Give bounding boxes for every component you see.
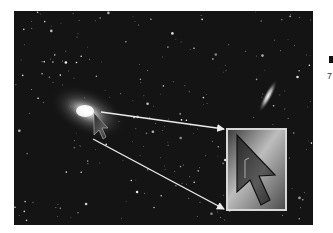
star (175, 39, 176, 40)
star (60, 207, 62, 209)
star (87, 47, 88, 48)
star (140, 79, 142, 81)
star (52, 61, 54, 63)
star (261, 54, 264, 57)
star (288, 39, 289, 40)
star (179, 113, 181, 115)
star (220, 217, 221, 218)
star (284, 90, 285, 91)
star (162, 130, 163, 131)
star (42, 61, 43, 62)
star (155, 123, 156, 124)
star (133, 16, 134, 17)
star (19, 215, 20, 216)
star (24, 201, 26, 203)
star (201, 15, 202, 16)
star (181, 119, 182, 120)
star (31, 28, 32, 29)
star (288, 118, 289, 119)
star (260, 20, 262, 22)
star (121, 218, 122, 219)
cropped-text-fragment: 7 (327, 72, 332, 81)
star (101, 62, 102, 63)
star (217, 156, 218, 157)
star (298, 70, 300, 72)
star (164, 126, 165, 127)
star (264, 70, 265, 71)
star (122, 160, 123, 161)
star (66, 171, 68, 173)
star (74, 78, 75, 79)
star (186, 120, 188, 122)
star (279, 94, 280, 95)
star (203, 104, 204, 105)
star (188, 198, 189, 199)
star (255, 12, 256, 13)
star (24, 211, 26, 213)
star (132, 141, 133, 142)
star (50, 59, 51, 60)
star (226, 70, 227, 71)
star (225, 65, 226, 66)
star (160, 157, 161, 158)
star (181, 42, 182, 43)
star (193, 133, 194, 134)
star (190, 49, 191, 50)
star (65, 61, 68, 64)
star (21, 59, 22, 60)
star (147, 70, 148, 71)
star (309, 65, 311, 67)
star (228, 44, 229, 45)
star (79, 20, 80, 21)
star (197, 170, 199, 172)
star (299, 218, 301, 220)
star (294, 45, 295, 46)
star (199, 167, 200, 168)
star (135, 179, 136, 180)
star (96, 76, 98, 78)
star (179, 137, 182, 140)
star (182, 183, 183, 184)
star (256, 79, 258, 81)
star (24, 44, 25, 45)
star (26, 220, 28, 222)
star (183, 165, 184, 166)
star (289, 16, 291, 18)
star (306, 54, 307, 55)
star (33, 202, 34, 203)
star (77, 37, 78, 38)
star (146, 132, 148, 134)
star (168, 119, 169, 120)
cropped-bullet (329, 56, 333, 63)
star (273, 105, 275, 107)
star (299, 17, 300, 18)
star (15, 84, 16, 85)
star (189, 91, 190, 92)
star (143, 95, 144, 96)
star (87, 160, 89, 162)
star (57, 204, 58, 205)
star (49, 76, 51, 78)
star (186, 184, 187, 185)
star (217, 211, 218, 212)
star (76, 133, 77, 134)
star (26, 153, 28, 155)
star (89, 59, 90, 60)
star (74, 147, 76, 149)
star (65, 51, 66, 52)
star (37, 97, 39, 99)
star (138, 25, 139, 26)
star (189, 176, 190, 177)
star (274, 40, 275, 41)
star (222, 163, 224, 165)
star (135, 21, 136, 22)
star (310, 55, 311, 56)
star (109, 97, 110, 98)
star (153, 207, 155, 209)
star (95, 149, 96, 150)
star (201, 19, 203, 21)
star (162, 57, 163, 58)
star (193, 181, 195, 183)
star (210, 212, 213, 215)
